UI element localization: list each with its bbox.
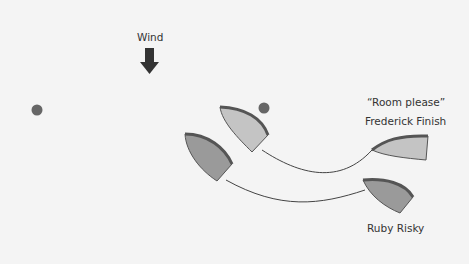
ruby-boat-end bbox=[363, 180, 413, 213]
quote-label: “Room please” bbox=[367, 96, 445, 108]
frederick-track bbox=[262, 150, 372, 173]
frederick-label: Frederick Finish bbox=[365, 115, 446, 127]
arrow-down-icon bbox=[140, 48, 159, 74]
ruby-track bbox=[226, 180, 365, 202]
wind-label: Wind bbox=[137, 31, 163, 43]
center-mark bbox=[259, 103, 270, 114]
ruby-boat-start bbox=[185, 134, 232, 181]
ruby-label: Ruby Risky bbox=[367, 222, 424, 234]
left-mark bbox=[32, 105, 43, 116]
frederick-boat-end bbox=[372, 136, 428, 160]
frederick-boat-start bbox=[220, 107, 268, 152]
